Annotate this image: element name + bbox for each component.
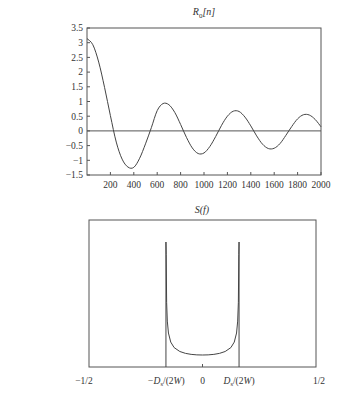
chart2-plot-area: −1/2−Ds/(2W)0Ds/(2W)1/2 — [75, 220, 325, 387]
x-tick-label: 0 — [200, 376, 205, 386]
x-tick-label: −Ds/(2W) — [147, 376, 184, 387]
spectrum-curve — [166, 242, 239, 355]
x-tick-label: −1/2 — [75, 376, 93, 386]
spectrum-chart: S(f) −1/2−Ds/(2W)0Ds/(2W)1/2 — [0, 0, 344, 399]
chart2-title: S(f) — [195, 204, 210, 216]
x-tick-label: 1/2 — [313, 376, 325, 386]
chart2-frame — [89, 220, 316, 367]
x-tick-label: Ds/(2W) — [223, 376, 255, 387]
